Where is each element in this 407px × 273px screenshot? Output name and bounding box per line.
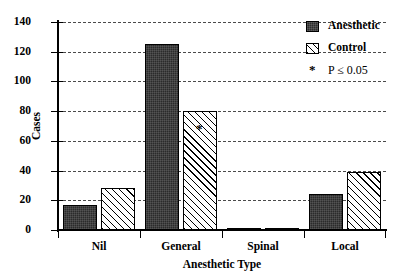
y-axis-label-60: 60 xyxy=(0,135,31,147)
legend-label-anesthetic: Anesthetic xyxy=(328,19,380,31)
y-tick-20 xyxy=(51,200,58,201)
bar-spinal-control xyxy=(265,228,299,231)
y-tick-inner-60 xyxy=(58,141,63,142)
x-axis-label-local: Local xyxy=(315,240,375,252)
legend-label-control: Control xyxy=(328,41,366,53)
y-tick-inner-20 xyxy=(58,200,63,201)
legend-swatch-control-icon xyxy=(306,43,319,54)
x-axis-label-general: General xyxy=(151,240,211,252)
y-tick-40 xyxy=(51,171,58,172)
y-tick-80 xyxy=(51,111,58,112)
x-axis-label-nil: Nil xyxy=(69,240,129,252)
x-tick-3 xyxy=(304,230,305,238)
y-tick-100 xyxy=(51,81,58,82)
y-tick-inner-80 xyxy=(58,111,63,112)
y-axis-label-20: 20 xyxy=(0,194,31,206)
y-axis-title: Cases xyxy=(30,112,42,140)
bar-local-anesthetic xyxy=(309,194,343,230)
bar-spinal-anesthetic xyxy=(227,228,261,231)
gridline-40 xyxy=(58,171,386,172)
y-axis-title-wrap: Cases xyxy=(72,22,92,230)
legend-item-anesthetic: Anesthetic xyxy=(306,18,406,40)
y-axis-label-120: 120 xyxy=(0,46,31,58)
y-tick-140 xyxy=(51,22,58,23)
bar-local-control xyxy=(347,172,381,230)
y-axis-label-80: 80 xyxy=(0,105,31,117)
bar-general-anesthetic xyxy=(145,44,179,230)
y-tick-inner-120 xyxy=(58,52,63,53)
x-tick-0 xyxy=(58,230,59,238)
significance-asterisk: * xyxy=(196,122,203,135)
y-tick-0 xyxy=(51,230,58,231)
y-tick-60 xyxy=(51,141,58,142)
bar-nil-control xyxy=(101,188,135,230)
y-axis-label-40: 40 xyxy=(0,165,31,177)
y-axis-label-100: 100 xyxy=(0,75,31,87)
legend-item-control: Control xyxy=(306,40,406,62)
legend-item-pvalue: * P ≤ 0.05 xyxy=(306,62,406,84)
legend-asterisk-icon: * xyxy=(309,63,316,76)
legend-label-pvalue: P ≤ 0.05 xyxy=(328,63,368,78)
x-axis-label-spinal: Spinal xyxy=(233,240,293,252)
gridline-80 xyxy=(58,111,386,112)
y-tick-inner-100 xyxy=(58,81,63,82)
y-tick-inner-40 xyxy=(58,171,63,172)
x-tick-1 xyxy=(140,230,141,238)
x-tick-4 xyxy=(385,230,386,238)
bar-nil-anesthetic xyxy=(63,205,97,230)
x-axis-title: Anesthetic Type xyxy=(58,258,386,270)
y-tick-inner-140 xyxy=(58,22,63,23)
legend-swatch-anesthetic-icon xyxy=(306,21,319,32)
y-axis-label-140: 140 xyxy=(0,16,31,28)
y-tick-120 xyxy=(51,52,58,53)
bar-chart: 140 120 100 80 60 40 20 0 Cases * xyxy=(0,0,407,273)
chart-legend: Anesthetic Control * P ≤ 0.05 xyxy=(306,18,406,84)
x-tick-2 xyxy=(222,230,223,238)
y-axis-label-0: 0 xyxy=(0,224,31,236)
gridline-60 xyxy=(58,141,386,142)
